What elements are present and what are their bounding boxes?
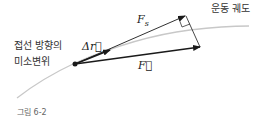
f-label: F⃗ xyxy=(138,60,152,72)
tangent-label-line2: 미소변위 xyxy=(14,56,50,68)
trajectory-curve xyxy=(17,26,249,98)
right-angle-mark xyxy=(179,19,190,27)
figure-6-2: 운동 궤도 접선 방향의 미소변위 Fs Δr⃗ F⃗ 그림 6-2 xyxy=(0,0,267,119)
trajectory-label: 운동 궤도 xyxy=(211,3,250,15)
fs-label: Fs xyxy=(137,14,149,30)
tangent-label-line1: 접선 방향의 xyxy=(14,40,62,52)
projection-line xyxy=(186,16,200,47)
delta-r-label: Δr⃗ xyxy=(82,41,102,53)
figure-caption: 그림 6-2 xyxy=(17,107,47,119)
point-mark xyxy=(73,62,78,67)
